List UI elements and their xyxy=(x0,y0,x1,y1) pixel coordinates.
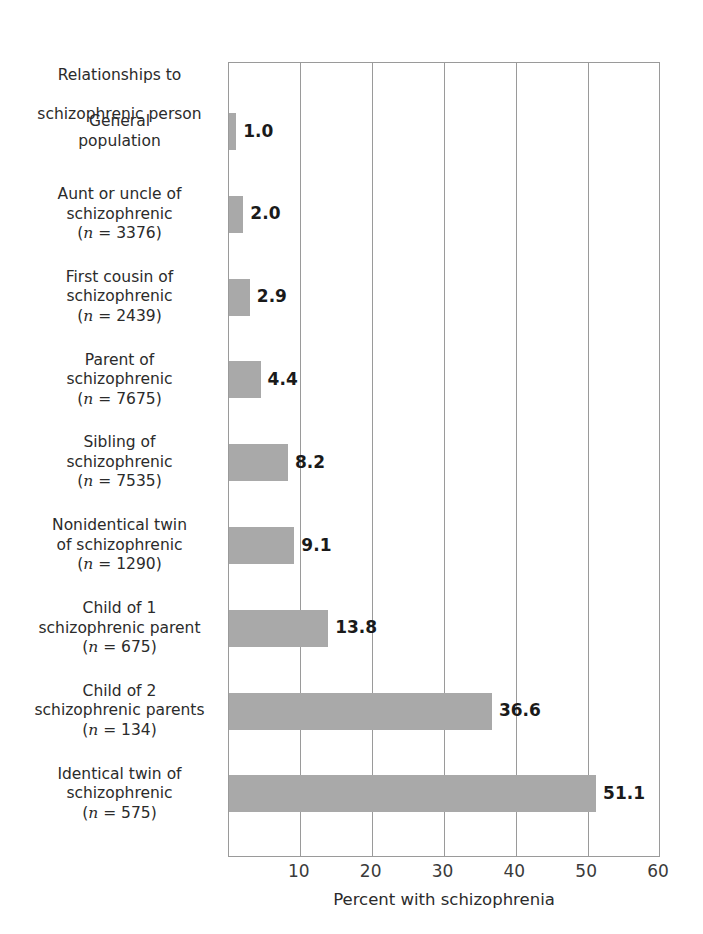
bar-value-label: 13.8 xyxy=(335,617,377,637)
category-label-line2: schizophrenic xyxy=(12,784,227,804)
x-tick-label: 40 xyxy=(503,861,525,881)
bar xyxy=(229,775,596,812)
category-label-line2: schizophrenic xyxy=(12,287,227,307)
category-label-line2: of schizophrenic xyxy=(12,536,227,556)
x-tick-label: 30 xyxy=(432,861,454,881)
bar xyxy=(229,693,492,730)
x-tick-label: 10 xyxy=(288,861,310,881)
bar xyxy=(229,527,294,564)
category-label: Parent ofschizophrenic(n = 7675) xyxy=(12,351,227,410)
category-label-sample-size: (n = 7675) xyxy=(12,390,227,410)
category-label: Aunt or uncle ofschizophrenic(n = 3376) xyxy=(12,185,227,244)
category-label-line2: schizophrenic xyxy=(12,205,227,225)
category-label-sample-size: (n = 3376) xyxy=(12,224,227,244)
x-tick-label: 20 xyxy=(360,861,382,881)
category-label-line1: Child of 1 xyxy=(12,599,227,619)
category-label-line2: schizophrenic xyxy=(12,453,227,473)
category-label: Identical twin ofschizophrenic(n = 575) xyxy=(12,765,227,824)
bar-row: Identical twin ofschizophrenic(n = 575)5… xyxy=(0,752,703,835)
bar-value-label: 1.0 xyxy=(243,121,273,141)
category-label-sample-size: (n = 134) xyxy=(12,721,227,741)
category-label: Nonidentical twinof schizophrenic(n = 12… xyxy=(12,516,227,575)
category-label-line1: Identical twin of xyxy=(12,765,227,785)
bar-row: Child of 2schizophrenic parents(n = 134)… xyxy=(0,670,703,753)
bar-value-label: 51.1 xyxy=(603,783,645,803)
bar-value-label: 4.4 xyxy=(268,369,298,389)
bar xyxy=(229,279,250,316)
bar-value-label: 8.2 xyxy=(295,452,325,472)
category-label-line1: Sibling of xyxy=(12,433,227,453)
x-axis-label: Percent with schizophrenia xyxy=(228,890,660,909)
bar-value-label: 2.0 xyxy=(250,203,280,223)
x-tick-label: 50 xyxy=(575,861,597,881)
category-label-line2: schizophrenic xyxy=(12,370,227,390)
bar xyxy=(229,113,236,150)
category-label: Child of 2schizophrenic parents(n = 134) xyxy=(12,682,227,741)
bar-row: Sibling ofschizophrenic(n = 7535)8.2 xyxy=(0,421,703,504)
category-label-line1: Nonidentical twin xyxy=(12,516,227,536)
category-label-line1: First cousin of xyxy=(12,268,227,288)
bar-value-label: 9.1 xyxy=(301,535,331,555)
n-symbol: n xyxy=(83,307,93,325)
bar xyxy=(229,610,328,647)
category-label-line1: General xyxy=(12,112,227,132)
category-label-sample-size: (n = 2439) xyxy=(12,307,227,327)
category-label-sample-size: (n = 575) xyxy=(12,804,227,824)
category-label-sample-size: (n = 7535) xyxy=(12,472,227,492)
bar xyxy=(229,196,243,233)
category-label: Child of 1schizophrenic parent(n = 675) xyxy=(12,599,227,658)
category-label: Generalpopulation xyxy=(12,112,227,151)
bar-row: Parent ofschizophrenic(n = 7675)4.4 xyxy=(0,338,703,421)
bar xyxy=(229,444,288,481)
category-label-sample-size: (n = 675) xyxy=(12,638,227,658)
category-label: First cousin ofschizophrenic(n = 2439) xyxy=(12,268,227,327)
x-axis-ticks: 102030405060 xyxy=(228,861,660,887)
n-symbol: n xyxy=(88,638,98,656)
n-symbol: n xyxy=(83,472,93,490)
category-label-line1: Aunt or uncle of xyxy=(12,185,227,205)
n-symbol: n xyxy=(83,390,93,408)
n-symbol: n xyxy=(88,804,98,822)
bar-value-label: 2.9 xyxy=(257,286,287,306)
n-symbol: n xyxy=(83,555,93,573)
category-label-line2: schizophrenic parents xyxy=(12,701,227,721)
bar-row: Nonidentical twinof schizophrenic(n = 12… xyxy=(0,504,703,587)
category-label-sample-size: (n = 1290) xyxy=(12,555,227,575)
bar-value-label: 36.6 xyxy=(499,700,541,720)
category-label-line2: population xyxy=(12,132,227,152)
bar-rows: Generalpopulation1.0Aunt or uncle ofschi… xyxy=(0,0,703,934)
category-label-line1: Parent of xyxy=(12,351,227,371)
bar-row: First cousin ofschizophrenic(n = 2439)2.… xyxy=(0,256,703,339)
category-label-line2: schizophrenic parent xyxy=(12,619,227,639)
category-label-line1: Child of 2 xyxy=(12,682,227,702)
n-symbol: n xyxy=(88,721,98,739)
bar-row: Aunt or uncle ofschizophrenic(n = 3376)2… xyxy=(0,173,703,256)
n-symbol: n xyxy=(83,224,93,242)
bar-row: Generalpopulation1.0 xyxy=(0,90,703,173)
bar xyxy=(229,361,261,398)
x-tick-label: 60 xyxy=(647,861,669,881)
bar-chart-figure: Relationships to schizophrenic person Ge… xyxy=(0,0,703,934)
category-label: Sibling ofschizophrenic(n = 7535) xyxy=(12,433,227,492)
bar-row: Child of 1schizophrenic parent(n = 675)1… xyxy=(0,587,703,670)
